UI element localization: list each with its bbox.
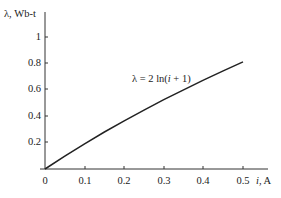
- chart-plot-area: [0, 0, 281, 198]
- x-tick-label: 0.1: [78, 175, 91, 187]
- y-tick-label: 0.4: [28, 110, 41, 122]
- curve-annotation: λ = 2 ln(i + 1): [132, 73, 191, 85]
- y-tick-label: 0.2: [28, 136, 41, 148]
- x-tick-label: 0.3: [157, 175, 170, 187]
- y-tick-label: 1: [36, 31, 41, 43]
- x-tick-label: 0.2: [117, 175, 130, 187]
- y-tick-label: 0.8: [28, 57, 41, 69]
- x-tick-label: 0.5: [236, 175, 249, 187]
- y-tick-label: 0.6: [28, 83, 41, 95]
- x-axis-label: i, A: [256, 175, 271, 187]
- x-tick-label: 0.4: [196, 175, 209, 187]
- y-axis-label: λ, Wb-t: [4, 8, 36, 20]
- x-tick-label: 0: [42, 175, 47, 187]
